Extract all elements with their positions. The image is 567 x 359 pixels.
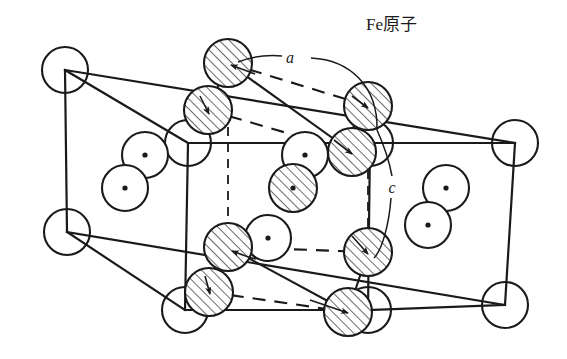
fe-atom-top-right-lower [328, 128, 376, 176]
center-dot-icon [443, 185, 448, 190]
corner-atom-rear-bottom-left [44, 209, 90, 255]
center-dot-icon [122, 185, 127, 190]
fe-atom-top-mid-left [184, 86, 232, 134]
fe-atom-label: Fe原子 [366, 15, 417, 34]
fe-atom-bottom-left-upper [204, 223, 252, 271]
fe-atom-body-center [269, 164, 317, 212]
unit-cell-svg: Fe原子 a c [0, 0, 567, 359]
fe-atom-bottom-front-center [324, 288, 372, 336]
center-dot-icon [302, 152, 307, 157]
corner-atom-rear-top-left [42, 47, 88, 93]
interstitial-atom [405, 202, 451, 248]
center-dot-icon [290, 185, 295, 190]
axis-a-label: a [286, 49, 294, 66]
corner-atom-rear-top-right [492, 120, 538, 166]
axis-c-label: c [388, 179, 395, 196]
center-dot-icon [265, 235, 270, 240]
center-dot-icon [425, 222, 430, 227]
crystal-structure-figure: Fe原子 a c [0, 0, 567, 359]
interstitial-atom [102, 165, 148, 211]
center-dot-icon [142, 152, 147, 157]
fe-atom-top-rear-center [204, 39, 252, 87]
corner-atom-rear-bottom-right [482, 282, 528, 328]
